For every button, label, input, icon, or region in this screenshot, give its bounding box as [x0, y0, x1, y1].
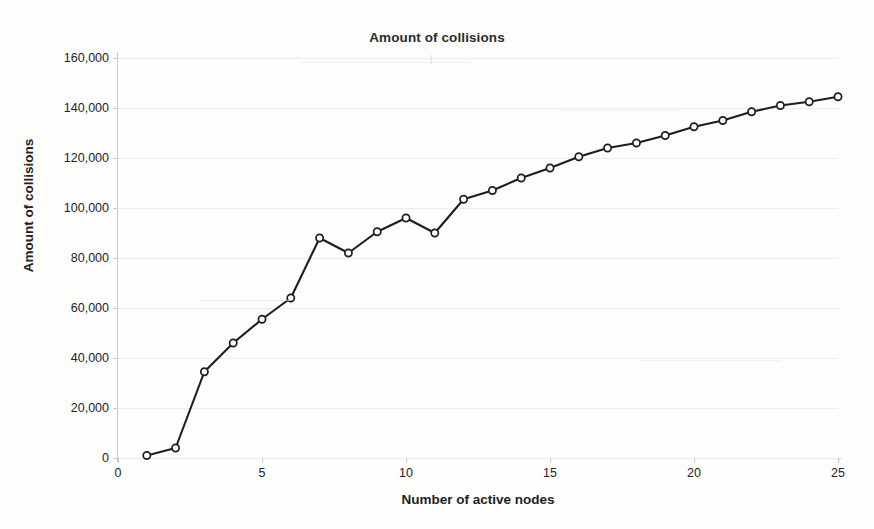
x-tick-label: 10	[399, 466, 413, 480]
x-axis-title: Number of active nodes	[118, 492, 838, 507]
data-point-marker	[431, 229, 438, 236]
data-point-marker	[172, 444, 179, 451]
data-point-marker	[690, 123, 697, 130]
data-point-marker	[662, 132, 669, 139]
x-tick-label: 0	[115, 466, 122, 480]
data-point-marker	[806, 98, 813, 105]
series-collisions	[118, 58, 838, 458]
data-point-marker	[546, 164, 553, 171]
data-point-marker	[143, 452, 150, 459]
data-point-marker	[230, 339, 237, 346]
chart-figure: Amount of collisions Amount of collision…	[0, 0, 874, 529]
y-tick-label: 140,000	[64, 101, 109, 115]
x-tick-mark	[406, 458, 407, 463]
data-point-marker	[489, 187, 496, 194]
data-point-marker	[748, 108, 755, 115]
data-point-marker	[633, 139, 640, 146]
x-tick-label: 15	[543, 466, 557, 480]
gridline-horizontal	[118, 458, 838, 459]
series-markers	[143, 93, 841, 459]
data-point-marker	[719, 117, 726, 124]
chart-title: Amount of collisions	[0, 30, 874, 45]
y-tick-label: 0	[102, 451, 109, 465]
y-tick-label: 20,000	[71, 401, 109, 415]
data-point-marker	[287, 294, 294, 301]
x-tick-label: 20	[687, 466, 701, 480]
x-tick-mark	[118, 458, 119, 463]
data-point-marker	[604, 144, 611, 151]
data-point-marker	[402, 214, 409, 221]
x-tick-label: 5	[259, 466, 266, 480]
x-tick-mark	[262, 458, 263, 463]
data-point-marker	[316, 234, 323, 241]
data-point-marker	[777, 102, 784, 109]
data-point-marker	[575, 153, 582, 160]
x-tick-mark	[694, 458, 695, 463]
data-point-marker	[345, 249, 352, 256]
y-tick-label: 100,000	[64, 201, 109, 215]
x-tick-mark	[838, 458, 839, 463]
y-tick-label: 160,000	[64, 51, 109, 65]
series-line-collisions	[147, 97, 838, 456]
data-point-marker	[258, 316, 265, 323]
plot-area: 020,00040,00060,00080,000100,000120,0001…	[118, 58, 838, 458]
y-tick-label: 120,000	[64, 151, 109, 165]
y-tick-label: 60,000	[71, 301, 109, 315]
y-tick-label: 80,000	[71, 251, 109, 265]
data-point-marker	[518, 174, 525, 181]
data-point-marker	[460, 196, 467, 203]
data-point-marker	[834, 93, 841, 100]
x-tick-label: 25	[831, 466, 845, 480]
x-tick-mark	[550, 458, 551, 463]
data-point-marker	[201, 368, 208, 375]
y-axis-title: Amount of collisions	[21, 56, 36, 356]
y-tick-label: 40,000	[71, 351, 109, 365]
data-point-marker	[374, 228, 381, 235]
